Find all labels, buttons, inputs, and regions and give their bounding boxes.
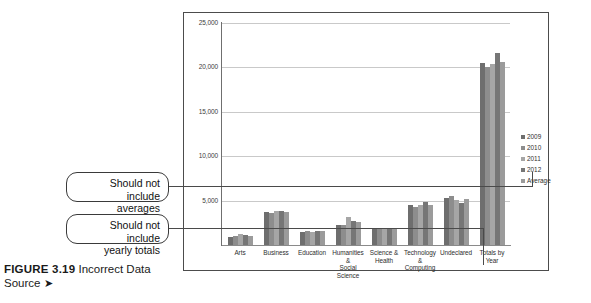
legend-item: Average (521, 175, 551, 186)
caption-arrow-icon: ➤ (44, 277, 53, 289)
x-axis-tick-label-line: Technology & (402, 249, 438, 264)
x-axis-tick-label-line: Humanities & (330, 249, 366, 264)
chart-container: 5,00010,00015,00020,00025,000 ArtsBusine… (183, 12, 549, 271)
figure-caption: FIGURE 3.19 Incorrect Data Source ➤ (4, 262, 184, 290)
y-axis-tick-label: 20,000 (184, 63, 218, 70)
legend-swatch-icon (521, 146, 525, 150)
bar (248, 236, 253, 245)
legend-swatch-icon (521, 157, 525, 161)
bar-group (294, 23, 330, 245)
x-axis-baseline (222, 245, 511, 246)
y-axis-tick-label: 5,000 (184, 197, 218, 204)
legend-item: 2010 (521, 142, 551, 153)
x-axis-tick-label: Technology &Computing (402, 249, 438, 279)
callout-totals-leader-elbow (483, 228, 484, 265)
x-axis-tick-label-line: Health (366, 257, 402, 265)
callout-should-not-include-averages: Should not include averages (66, 172, 169, 202)
bar-group (330, 23, 366, 245)
legend-label: 2011 (527, 155, 541, 162)
bar-groups (222, 23, 510, 245)
x-axis-tick-label: Science &Health (366, 249, 402, 279)
x-axis-tick-label-line: Computing (402, 264, 438, 272)
x-axis-tick-label-line: Education (294, 249, 330, 257)
y-axis-tick-label: 10,000 (184, 152, 218, 159)
bar-group (366, 23, 402, 245)
callout-totals-leader-line (168, 228, 484, 229)
x-axis-tick-label: Arts (222, 249, 258, 279)
bar-group (438, 23, 474, 245)
callout-totals-line2: yearly totals (75, 244, 160, 257)
bar-group (258, 23, 294, 245)
bar-group (474, 23, 510, 245)
bar-group (222, 23, 258, 245)
bar (392, 229, 397, 245)
x-axis-tick-label-line: Undeclared (438, 249, 474, 257)
y-axis-tick-label: 15,000 (184, 108, 218, 115)
x-axis-tick-label-line: Business (258, 249, 294, 257)
bar (428, 205, 433, 245)
bar (320, 231, 325, 245)
x-axis-tick-label-line: Totals by Year (474, 249, 510, 264)
x-axis-tick-label: Totals by Year (474, 249, 510, 279)
legend-label: 2010 (527, 144, 541, 151)
x-axis-tick-label-line: Arts (222, 249, 258, 257)
x-axis-tick-label-line: Social Science (330, 264, 366, 279)
x-axis-tick-label: Education (294, 249, 330, 279)
chart-legend: 2009201020112012Average (521, 131, 551, 186)
bar-group (402, 23, 438, 245)
legend-swatch-icon (521, 179, 525, 183)
x-axis-tick-label-line: Science & (366, 249, 402, 257)
x-axis-tick-label: Undeclared (438, 249, 474, 279)
legend-item: 2009 (521, 131, 551, 142)
legend-swatch-icon (521, 168, 525, 172)
y-axis-tick-label: 25,000 (184, 19, 218, 26)
callout-should-not-include-yearly-totals: Should not include yearly totals (66, 214, 169, 244)
legend-swatch-icon (521, 135, 525, 139)
x-axis-tick-label: Business (258, 249, 294, 279)
callout-averages-line2: averages (75, 202, 160, 215)
legend-item: 2012 (521, 164, 551, 175)
bar (464, 199, 469, 245)
legend-label: 2012 (527, 166, 541, 173)
bar (500, 62, 505, 245)
x-axis-tick-labels: ArtsBusinessEducationHumanities &Social … (222, 249, 510, 279)
legend-item: 2011 (521, 153, 551, 164)
callout-averages-leader-elbow (532, 172, 533, 187)
callout-averages-line1: Should not include (75, 177, 160, 202)
bar (356, 222, 361, 245)
callout-totals-line1: Should not include (75, 219, 160, 244)
x-axis-tick-label: Humanities &Social Science (330, 249, 366, 279)
legend-label: Average (527, 177, 551, 184)
figure-number: FIGURE 3.19 (4, 263, 75, 275)
callout-averages-leader-line (168, 186, 533, 187)
legend-label: 2009 (527, 133, 541, 140)
